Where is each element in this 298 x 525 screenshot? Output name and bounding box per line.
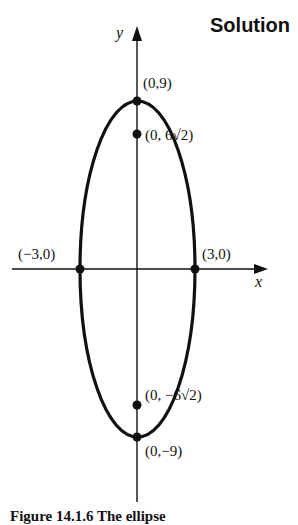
vertex-bottom-label: (0,−9) bbox=[145, 443, 182, 460]
vertex-top-point bbox=[133, 97, 142, 106]
covertex-left-label: (−3,0) bbox=[18, 246, 55, 263]
focus-bottom-point bbox=[133, 401, 142, 410]
focus-bottom-label: (0, −6√2) bbox=[145, 387, 202, 404]
focus-top-label: (0, 6√2) bbox=[145, 127, 193, 144]
x-axis-label: x bbox=[254, 273, 262, 290]
vertex-bottom-point bbox=[133, 433, 142, 442]
covertex-right-label: (3,0) bbox=[202, 246, 231, 263]
vertex-top-label: (0,9) bbox=[143, 75, 172, 92]
y-axis-label: y bbox=[114, 24, 124, 42]
covertex-left-point bbox=[76, 265, 85, 274]
figure-caption: Figure 14.1.6 The ellipse bbox=[10, 508, 166, 525]
focus-top-point bbox=[133, 130, 142, 139]
covertex-right-point bbox=[191, 265, 200, 274]
y-axis-arrow-icon bbox=[132, 26, 142, 41]
